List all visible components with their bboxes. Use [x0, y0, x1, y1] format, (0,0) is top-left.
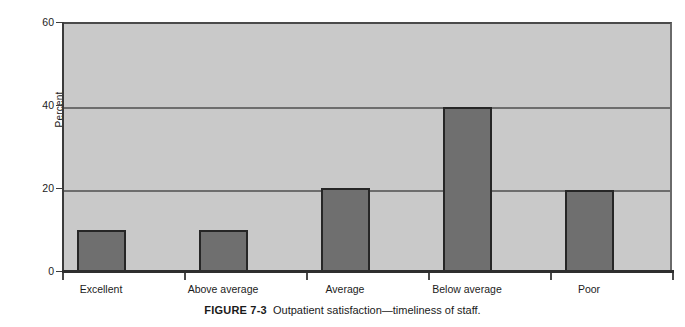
x-tick-label-excellent: Excellent [80, 283, 123, 295]
x-tick-label-above-average: Above average [188, 283, 259, 295]
x-tick-mark [184, 273, 186, 280]
gridline [62, 107, 670, 109]
bar-excellent [77, 230, 126, 272]
x-tick-mark [550, 273, 552, 280]
y-tick-label: 60 [24, 17, 54, 27]
bar-above-average [199, 230, 248, 272]
x-tick-label-average: Average [326, 283, 365, 295]
y-tick-label: 0 [24, 266, 54, 276]
x-tick-mark [428, 273, 430, 280]
x-tick-label-poor: Poor [578, 283, 600, 295]
x-tick-mark [62, 273, 64, 280]
y-axis-line [62, 22, 64, 273]
figure-caption: FIGURE 7-3 Outpatient satisfaction—timel… [0, 304, 685, 316]
x-tick-mark [672, 273, 674, 280]
figure-caption-text: Outpatient satisfaction—timeliness of st… [273, 304, 481, 316]
bar-below-average [443, 107, 492, 271]
figure-container: Percent 0204060 ExcellentAbove averageAv… [0, 0, 685, 327]
bar-poor [565, 190, 614, 271]
figure-caption-label: FIGURE 7-3 [204, 304, 267, 316]
y-tick-label: 40 [24, 100, 54, 110]
bar-average [321, 188, 370, 271]
x-tick-label-below-average: Below average [432, 283, 501, 295]
x-axis-line [62, 270, 674, 273]
plot-inner [62, 24, 670, 271]
plot-area [62, 22, 672, 271]
y-tick-label: 20 [24, 183, 54, 193]
x-tick-mark [306, 273, 308, 280]
